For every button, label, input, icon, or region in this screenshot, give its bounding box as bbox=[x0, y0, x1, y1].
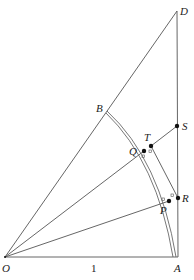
segment-DA bbox=[177, 11, 178, 257]
label-S: S bbox=[182, 120, 188, 132]
arc-inner bbox=[106, 113, 173, 257]
point-T-dot bbox=[149, 144, 153, 148]
point-Q-dot bbox=[142, 149, 146, 153]
label-B: B bbox=[96, 102, 103, 114]
segment-OQ bbox=[5, 151, 144, 257]
label-D: D bbox=[179, 5, 188, 17]
label-Q: Q bbox=[129, 145, 137, 157]
label-P: P bbox=[159, 204, 167, 216]
segment-TS bbox=[151, 126, 177, 146]
segment-OD bbox=[5, 11, 177, 257]
segment-OP bbox=[5, 201, 169, 257]
label-O: O bbox=[2, 262, 10, 274]
right-angle-marker-T bbox=[149, 150, 152, 153]
arc-outer bbox=[107, 111, 176, 257]
point-S-dot bbox=[175, 124, 179, 128]
label-T: T bbox=[144, 131, 151, 143]
label-R: R bbox=[181, 192, 189, 204]
right-angle-marker-R bbox=[171, 194, 174, 197]
point-O-dot bbox=[4, 256, 6, 258]
geometry-diagram: D B S T Q R P O A 1 bbox=[0, 0, 194, 280]
point-P-dot bbox=[167, 199, 171, 203]
label-A: A bbox=[173, 262, 181, 274]
label-segment-length: 1 bbox=[91, 262, 97, 274]
point-R-dot bbox=[176, 196, 180, 200]
